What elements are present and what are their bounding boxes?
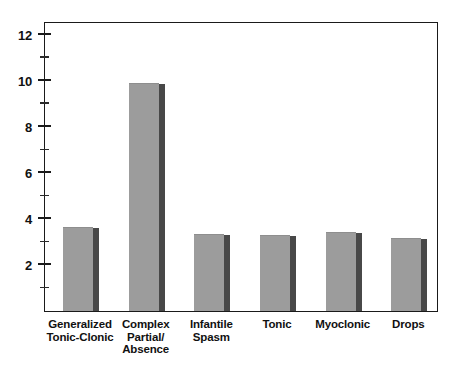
y-tick-major xyxy=(38,217,51,219)
y-axis-tick-label: 6 xyxy=(6,167,32,180)
bar xyxy=(129,84,165,311)
y-axis-tick-label: 10 xyxy=(6,75,32,88)
y-tick-major xyxy=(38,263,51,265)
y-tick-minor xyxy=(40,56,49,57)
bar xyxy=(391,239,427,312)
y-tick-major xyxy=(38,33,51,35)
bar-fill xyxy=(260,235,290,311)
bar-fill xyxy=(129,83,159,311)
bar-shadow-edge xyxy=(224,235,230,311)
y-tick-minor xyxy=(40,102,49,103)
bar-shadow-edge xyxy=(421,239,427,312)
bar xyxy=(194,235,230,311)
y-tick-major xyxy=(38,79,51,81)
y-tick-minor xyxy=(40,241,49,242)
x-axis-category-label: Drops xyxy=(353,318,454,331)
bar-shadow-edge xyxy=(290,236,296,311)
y-tick-major xyxy=(38,125,51,127)
bar xyxy=(260,236,296,311)
bar-shadow-edge xyxy=(93,228,99,311)
bar-fill xyxy=(391,238,421,312)
y-axis-tick-label: 12 xyxy=(6,29,32,42)
bar xyxy=(326,233,362,311)
y-axis-tick-label: 8 xyxy=(6,121,32,134)
y-tick-major xyxy=(38,171,51,173)
y-tick-minor xyxy=(40,149,49,150)
y-tick-minor xyxy=(40,287,49,288)
y-tick-minor xyxy=(40,195,49,196)
x-axis-category-label-line: Absence xyxy=(91,343,201,356)
bar-fill xyxy=(63,227,93,311)
bar xyxy=(63,228,99,311)
bar-chart: 24681012 GeneralizedTonic-ClonicComplexP… xyxy=(0,0,454,375)
bar-shadow-edge xyxy=(356,233,362,311)
bar-fill xyxy=(194,234,224,311)
bar-fill xyxy=(326,232,356,311)
x-axis-category-label-line: Drops xyxy=(353,318,454,331)
plot-area xyxy=(44,22,438,312)
y-axis-tick-label: 2 xyxy=(6,259,32,272)
y-axis-tick-label: 4 xyxy=(6,213,32,226)
bar-shadow-edge xyxy=(159,84,165,311)
x-axis-category-label-line: Spasm xyxy=(156,331,266,344)
